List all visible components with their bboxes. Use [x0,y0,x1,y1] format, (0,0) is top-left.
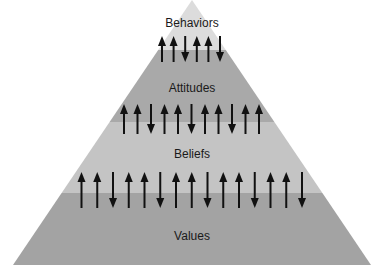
label-values: Values [174,229,210,243]
pyramid-diagram: Behaviors Attitudes Beliefs Values [0,0,384,275]
label-attitudes: Attitudes [169,81,216,95]
label-beliefs: Beliefs [174,147,210,161]
label-behaviors: Behaviors [165,16,218,30]
